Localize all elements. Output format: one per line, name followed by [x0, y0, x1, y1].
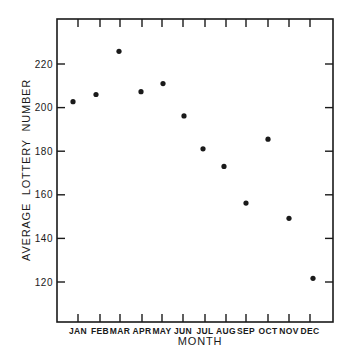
x-axis-ticks: JANFEBMARAPRMAYJUNJULAUGSEPOCTNOVDEC — [69, 19, 319, 336]
month-label-apr: APR — [133, 326, 152, 336]
month-label-mar: MAR — [110, 326, 130, 336]
month-label-jan: JAN — [69, 326, 87, 336]
data-point-feb — [93, 92, 98, 97]
lottery-scatter-chart: 120140160180200220 JANFEBMARAPRMAYJUNJUL… — [0, 0, 350, 361]
data-points — [70, 49, 315, 281]
data-point-mar — [116, 49, 121, 54]
data-point-jul — [200, 146, 205, 151]
month-label-nov: NOV — [279, 326, 298, 336]
y-axis-ticks: 120140160180200220 — [35, 59, 333, 288]
y-tick-label: 220 — [35, 59, 53, 70]
data-point-apr — [138, 89, 143, 94]
y-tick-label: 120 — [35, 277, 53, 288]
data-point-jun — [181, 113, 186, 118]
month-label-sep: SEP — [237, 326, 255, 336]
data-point-oct — [265, 137, 270, 142]
month-label-dec: DEC — [301, 326, 320, 336]
month-label-may: MAY — [152, 326, 171, 336]
plot-frame — [57, 19, 333, 322]
month-label-feb: FEB — [91, 326, 109, 336]
x-axis-title: MONTH — [178, 335, 222, 347]
month-label-oct: OCT — [259, 326, 278, 336]
data-point-nov — [286, 216, 291, 221]
data-point-aug — [221, 164, 226, 169]
y-tick-label: 160 — [35, 189, 53, 200]
data-point-may — [160, 81, 165, 86]
data-point-jan — [70, 99, 75, 104]
data-point-sep — [243, 200, 248, 205]
plot-border — [57, 19, 333, 322]
data-point-dec — [310, 276, 315, 281]
y-tick-label: 140 — [35, 233, 53, 244]
y-axis-title: AVERAGE LOTTERY NUMBER — [20, 79, 32, 261]
y-tick-label: 200 — [35, 102, 53, 113]
y-tick-label: 180 — [35, 146, 53, 157]
